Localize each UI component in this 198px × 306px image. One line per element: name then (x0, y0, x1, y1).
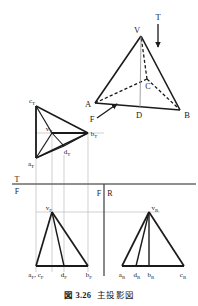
front-label-a-c: aF, cF (28, 271, 44, 280)
pictorial-view-group: V A B C D T F (85, 12, 190, 124)
altitude-v-d (140, 36, 141, 108)
edge-v-b (141, 36, 180, 110)
fold-label-R-right: R (107, 189, 113, 198)
label-vertex-D: D (136, 110, 142, 120)
top-label-b: bT (91, 130, 98, 139)
side-label-a: aR (119, 271, 126, 280)
top-label-v-sub: T (49, 129, 52, 134)
front-label-b: bF (86, 271, 93, 280)
top-edge-v-d (52, 133, 64, 146)
top-label-v: vT (46, 125, 53, 134)
fold-label-F-left: F (97, 189, 102, 198)
fold-lines-group: T F F R (12, 175, 196, 276)
side-edge-v-a (122, 212, 149, 266)
label-vertex-V: V (134, 25, 141, 35)
label-direction-F: F (90, 114, 95, 124)
edge-a-b (95, 103, 180, 110)
side-edge-v-c (149, 212, 184, 266)
front-direction-arrow-icon (97, 104, 117, 118)
label-vertex-A: A (85, 99, 92, 109)
figure-container: V A B C D T F (0, 0, 198, 306)
front-view-group: vF aF, cF dF bF (28, 204, 92, 280)
figure-caption: 図 3.26主投影図 (0, 288, 198, 300)
top-label-b-sub: T (94, 134, 97, 139)
front-label-d: dF (61, 271, 68, 280)
side-label-d: dR (134, 271, 142, 280)
label-direction-T: T (155, 12, 161, 22)
hidden-edge-c-b (147, 79, 178, 108)
label-vertex-C: C (145, 82, 150, 91)
front-label-v-sub: F (49, 208, 52, 213)
side-view-group: vR aR dR bR cR (119, 204, 187, 280)
side-edge-v-d (136, 212, 149, 266)
side-label-c: cR (180, 271, 187, 280)
top-label-c-sub: T (32, 101, 35, 106)
figure-caption-title: 主投影図 (97, 290, 134, 300)
fold-label-F: F (15, 187, 20, 196)
top-label-a-sub: T (31, 164, 34, 169)
fold-label-T: T (15, 175, 20, 184)
side-label-v: vR (152, 204, 160, 213)
label-vertex-B: B (184, 110, 190, 120)
top-edge-d-b (64, 133, 88, 146)
front-edge-v-a (36, 212, 52, 266)
technical-drawing-canvas: V A B C D T F (0, 0, 198, 306)
top-label-d: dT (64, 148, 71, 157)
top-label-c: cT (29, 97, 35, 106)
top-label-a: aT (28, 160, 34, 169)
side-label-b: bR (148, 271, 156, 280)
edge-v-a (95, 36, 141, 103)
front-label-v: vF (46, 204, 53, 213)
figure-caption-number: 図 3.26 (64, 290, 91, 300)
top-label-d-sub: T (67, 152, 70, 157)
